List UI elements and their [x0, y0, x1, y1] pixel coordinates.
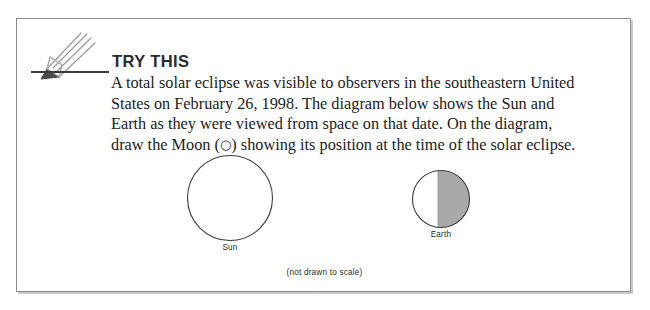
callout-body-text: A total solar eclipse was visible to obs… — [111, 73, 631, 155]
earth-circle — [411, 169, 471, 229]
earth-body-group: Earth — [410, 169, 472, 239]
try-this-callout-box: TRY THIS A total solar eclipse was visib… — [16, 18, 631, 292]
body-line-3: Earth as they were viewed from space on … — [111, 114, 631, 135]
earth-night-side — [438, 169, 471, 229]
moon-symbol-glyph: ○ — [220, 137, 231, 152]
try-this-heading: TRY THIS — [112, 52, 189, 71]
body-line-1: A total solar eclipse was visible to obs… — [111, 73, 631, 94]
body-line-2: States on February 26, 1998. The diagram… — [111, 94, 631, 115]
sun-circle — [186, 154, 274, 242]
sun-earth-diagram: Sun Earth (not drawn to scale) — [17, 19, 632, 293]
body-line-4: draw the Moon (○) showing its position a… — [111, 135, 631, 156]
earth-label: Earth — [410, 230, 472, 239]
sun-label: Sun — [185, 243, 275, 252]
not-drawn-to-scale-caption: (not drawn to scale) — [17, 268, 632, 277]
pencil-underline-rule — [31, 71, 109, 73]
pencil-icon — [29, 27, 103, 83]
sun-body-group: Sun — [185, 154, 275, 252]
